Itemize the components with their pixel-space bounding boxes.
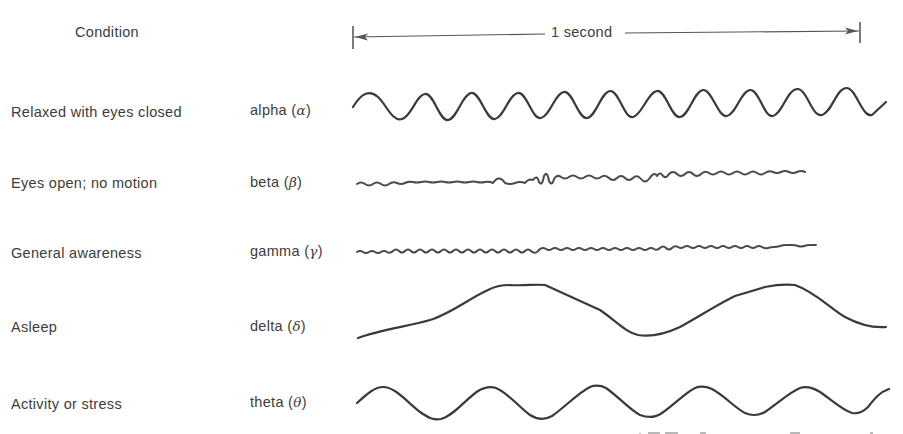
- alpha-waveform: [353, 88, 886, 120]
- condition-label-relaxed: Relaxed with eyes closed: [11, 104, 182, 120]
- delta-waveform: [358, 285, 886, 338]
- theta-waveform: [357, 386, 889, 420]
- scale-line-right: [625, 31, 859, 33]
- band-name: alpha: [250, 102, 287, 118]
- band-name: theta: [250, 394, 284, 410]
- beta-waveform: [357, 171, 805, 186]
- eeg-waveform-figure: Condition 1 second: [0, 0, 903, 434]
- condition-label-eyes-open: Eyes open; no motion: [11, 175, 157, 191]
- beta-symbol: β: [289, 174, 297, 190]
- time-scale-label: 1 second: [547, 24, 616, 40]
- band-label-delta: delta (δ): [250, 318, 306, 334]
- scale-line-left: [354, 34, 545, 37]
- alpha-symbol: α: [296, 102, 305, 118]
- band-label-beta: beta (β): [250, 174, 302, 190]
- band-label-gamma: gamma (γ): [250, 243, 323, 259]
- band-label-theta: theta (θ): [250, 394, 307, 410]
- condition-label-activity-stress: Activity or stress: [11, 396, 122, 412]
- band-name: beta: [250, 174, 279, 190]
- theta-symbol: θ: [293, 394, 301, 410]
- condition-label-asleep: Asleep: [11, 319, 57, 335]
- band-name: gamma: [250, 243, 300, 259]
- gamma-symbol: γ: [309, 243, 317, 259]
- gamma-waveform: [357, 245, 816, 253]
- band-name: delta: [250, 318, 283, 334]
- delta-symbol: δ: [292, 318, 300, 334]
- waveform-canvas: [0, 0, 903, 434]
- band-label-alpha: alpha (α): [250, 102, 311, 118]
- condition-label-general-awareness: General awareness: [11, 245, 142, 261]
